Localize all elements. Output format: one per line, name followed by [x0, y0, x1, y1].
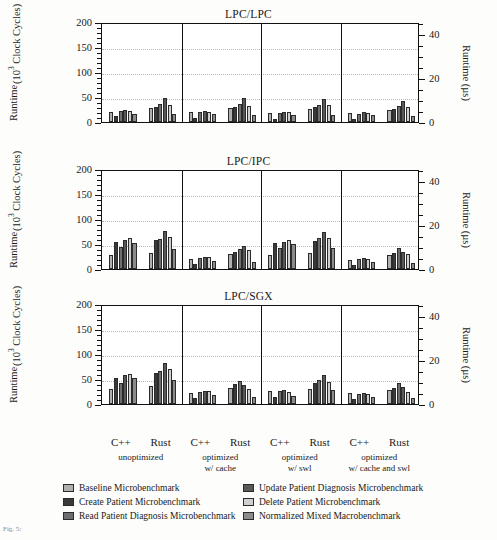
x-axis-label-cpp: C++ [350, 436, 370, 448]
x-axis-label-cpp: C++ [191, 436, 211, 448]
y-axis-minor-tick-left [97, 63, 101, 64]
y-axis-tick-left [95, 170, 101, 171]
y-axis-label-right: 20 [429, 74, 455, 85]
chart-panel-lpc-sgx: LPC/SGX05010015020002040Runtime(103 Cloc… [0, 290, 497, 435]
legend-label: Baseline Microbenchmark [79, 483, 180, 493]
axis-title-left-line2: (103 Clock Cycles) [8, 4, 23, 84]
y-axis-minor-tick-left [97, 265, 101, 266]
bar-group [102, 24, 420, 122]
y-axis-minor-tick-left [97, 28, 101, 29]
y-axis-tick-left [95, 330, 101, 331]
y-axis-minor-tick-right [419, 259, 423, 260]
y-axis-minor-tick-right [419, 57, 423, 58]
x-axis-label-cpp: C++ [270, 436, 290, 448]
y-axis-tick-left [95, 355, 101, 356]
legend-item[interactable]: Delete Patient Microbenchmark [243, 495, 423, 508]
y-axis-minor-tick-left [97, 53, 101, 54]
axis-title-left-line1: Runtime [8, 232, 23, 268]
legend-column-right: Update Patient Diagnosis MicrobenchmarkD… [243, 481, 423, 523]
legend-swatch-icon [243, 498, 254, 506]
bar [401, 101, 405, 123]
bar [406, 254, 410, 269]
y-axis-tick-left [95, 123, 101, 124]
y-axis-minor-tick-left [97, 235, 101, 236]
chart-legend: Baseline MicrobenchmarkCreate Patient Mi… [0, 481, 497, 523]
bar [392, 388, 396, 404]
y-axis-minor-tick-right [419, 112, 423, 113]
y-axis-label-right: 20 [429, 356, 455, 367]
legend-item[interactable]: Baseline Microbenchmark [63, 481, 235, 494]
y-axis-minor-tick-left [97, 385, 101, 386]
legend-item[interactable]: Read Patient Diagnosis Microbenchmark [63, 509, 235, 522]
axis-title-left: Runtime(103 Clock Cycles) [8, 25, 23, 121]
y-axis-minor-tick-right [419, 248, 423, 249]
y-axis-minor-tick-left [97, 58, 101, 59]
x-axis-language-labels: C++RustC++RustC++RustC++Rust [0, 436, 497, 452]
x-axis-label-rust: Rust [230, 436, 250, 448]
y-axis-tick-left [95, 405, 101, 406]
y-axis-minor-tick-left [97, 210, 101, 211]
y-axis-label-right: 40 [429, 30, 455, 41]
legend-label: Create Patient Microbenchmark [79, 497, 200, 507]
y-axis-label-right: 40 [429, 177, 455, 188]
y-axis-minor-tick-left [97, 345, 101, 346]
legend-label: Delete Patient Microbenchmark [259, 497, 380, 507]
legend-swatch-icon [63, 512, 74, 520]
y-axis-minor-tick-right [419, 46, 423, 47]
y-axis-minor-tick-left [97, 88, 101, 89]
y-axis-minor-tick-left [97, 205, 101, 206]
x-axis-label-rust: Rust [310, 436, 330, 448]
y-axis-tick-left [95, 48, 101, 49]
y-axis-minor-tick-left [97, 118, 101, 119]
legend-item[interactable]: Create Patient Microbenchmark [63, 495, 235, 508]
y-axis-minor-tick-right [419, 171, 423, 172]
plot-area [101, 23, 419, 123]
y-axis-minor-tick-left [97, 190, 101, 191]
y-axis-minor-tick-right [419, 339, 423, 340]
y-axis-label-left: 200 [58, 18, 92, 29]
y-axis-tick-right [419, 405, 425, 406]
y-axis-minor-tick-right [419, 237, 423, 238]
section-label-line2: w/ cache and swl [348, 463, 410, 474]
legend-item[interactable]: Normalized Mixed Macrobenchmark [243, 509, 423, 522]
y-axis-label-left: 50 [58, 93, 92, 104]
y-axis-label-right: 0 [429, 400, 455, 411]
y-axis-minor-tick-left [97, 180, 101, 181]
y-axis-tick-right [419, 35, 425, 36]
bar [406, 107, 410, 122]
bar [401, 387, 405, 405]
bar [387, 390, 391, 404]
legend-swatch-icon [243, 484, 254, 492]
y-axis-tick-right [419, 317, 425, 318]
bar [401, 252, 405, 270]
y-axis-tick-left [95, 195, 101, 196]
y-axis-tick-right [419, 123, 425, 124]
y-axis-minor-tick-left [97, 260, 101, 261]
y-axis-minor-tick-left [97, 255, 101, 256]
y-axis-minor-tick-right [419, 306, 423, 307]
y-axis-minor-tick-left [97, 325, 101, 326]
y-axis-minor-tick-left [97, 370, 101, 371]
y-axis-minor-tick-right [419, 90, 423, 91]
y-axis-tick-left [95, 270, 101, 271]
axis-title-right: Runtime (µs) [461, 311, 472, 399]
y-axis-tick-left [95, 245, 101, 246]
x-axis-label-rust: Rust [389, 436, 409, 448]
bar [387, 110, 391, 122]
y-axis-minor-tick-left [97, 43, 101, 44]
y-axis-minor-tick-left [97, 240, 101, 241]
section-label-line1: unoptimized [118, 452, 163, 463]
legend-column-left: Baseline MicrobenchmarkCreate Patient Mi… [63, 481, 235, 523]
y-axis-label-left: 50 [58, 240, 92, 251]
y-axis-label-left: 150 [58, 43, 92, 54]
legend-label: Normalized Mixed Macrobenchmark [259, 511, 400, 521]
plot-area [101, 170, 419, 270]
axis-title-left: Runtime(103 Clock Cycles) [8, 172, 23, 268]
y-axis-label-left: 100 [58, 350, 92, 361]
y-axis-minor-tick-left [97, 375, 101, 376]
y-axis-minor-tick-left [97, 93, 101, 94]
y-axis-minor-tick-left [97, 360, 101, 361]
legend-item[interactable]: Update Patient Diagnosis Microbenchmark [243, 481, 423, 494]
y-axis-minor-tick-left [97, 225, 101, 226]
section-label-line1: optimized [348, 452, 410, 463]
